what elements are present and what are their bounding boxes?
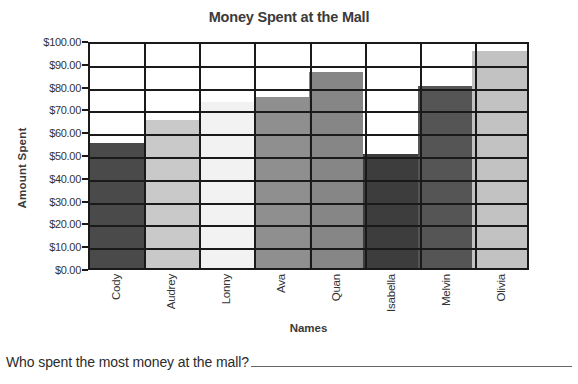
y-axis-tick-label: $80.00 xyxy=(49,82,81,94)
plot-inner xyxy=(90,44,527,268)
gridline xyxy=(90,180,527,182)
category-separator xyxy=(310,44,312,268)
gridline xyxy=(90,89,527,91)
answer-input-line[interactable] xyxy=(251,352,572,367)
gridline xyxy=(90,225,527,227)
x-axis-title: Names xyxy=(88,322,529,334)
bar-slot xyxy=(418,44,473,268)
question-text: Who spent the most money at the mall? xyxy=(6,354,249,370)
y-axis-tick-label: $0.00 xyxy=(55,264,81,276)
bar-ava xyxy=(254,97,309,268)
question-row: Who spent the most money at the mall? xyxy=(6,352,572,370)
bar-slot xyxy=(90,44,145,268)
bar-isabella xyxy=(363,154,418,268)
category-separator xyxy=(475,44,477,268)
x-axis-tick-label-quan: Quan xyxy=(330,274,342,301)
bar-slot xyxy=(363,44,418,268)
x-axis-tick-label-ava: Ava xyxy=(275,274,287,293)
bar-slot xyxy=(145,44,200,268)
bar-series xyxy=(90,44,527,268)
gridline xyxy=(90,134,527,136)
bar-slot xyxy=(309,44,364,268)
gridline xyxy=(90,248,527,250)
bar-lonny xyxy=(199,102,254,268)
bar-slot xyxy=(254,44,309,268)
worksheet-page: Money Spent at the Mall Amount Spent $10… xyxy=(0,0,578,384)
gridline xyxy=(90,111,527,113)
y-axis-tick-label: $50.00 xyxy=(49,150,81,162)
bar-slot xyxy=(472,44,527,268)
category-separator xyxy=(365,44,367,268)
bar-quan xyxy=(309,72,364,268)
category-separator xyxy=(144,44,146,268)
gridline xyxy=(90,66,527,68)
y-axis-tick-label: $60.00 xyxy=(49,127,81,139)
y-axis-tick-label: $70.00 xyxy=(49,104,81,116)
category-separator xyxy=(254,44,256,268)
y-axis-tick-label: $30.00 xyxy=(49,196,81,208)
x-axis-tick-label-audrey: Audrey xyxy=(165,274,177,309)
y-axis-tick-label: $10.00 xyxy=(49,241,81,253)
category-separator xyxy=(420,44,422,268)
x-axis-tick-label-melvin: Melvin xyxy=(440,274,452,306)
gridline xyxy=(90,203,527,205)
bar-olivia xyxy=(472,51,527,268)
gridline xyxy=(90,157,527,159)
x-axis-tick-label-cody: Cody xyxy=(110,274,122,300)
chart-title: Money Spent at the Mall xyxy=(0,9,578,25)
y-axis-tick-label: $20.00 xyxy=(49,218,81,230)
y-axis-title: Amount Spent xyxy=(16,108,28,228)
x-axis-tick-label-olivia: Olivia xyxy=(495,274,507,302)
x-axis-tick-label-lonny: Lonny xyxy=(220,274,232,304)
y-axis-tick-label: $90.00 xyxy=(49,59,81,71)
plot-area xyxy=(88,42,529,270)
bar-audrey xyxy=(145,120,200,268)
y-axis-tick-label: $100.00 xyxy=(43,36,81,48)
category-separator xyxy=(199,44,201,268)
x-axis-tick-label-isabella: Isabella xyxy=(385,274,397,312)
bar-slot xyxy=(199,44,254,268)
y-axis: Amount Spent $100.00$90.00$80.00$70.00$6… xyxy=(0,42,84,270)
y-axis-tick-label: $40.00 xyxy=(49,173,81,185)
